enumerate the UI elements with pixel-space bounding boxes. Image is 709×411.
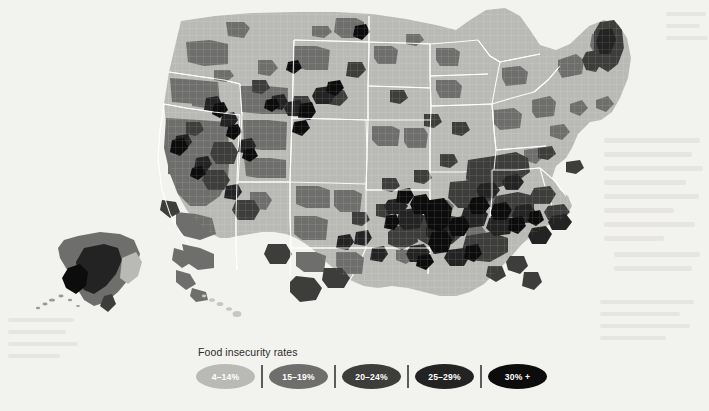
legend-item-2: 20–24%: [342, 364, 401, 389]
legend-label-4-14: 4–14%: [212, 372, 240, 382]
map-container: [0, 0, 709, 345]
map-layer-conus: [158, 8, 631, 302]
us-county-choropleth-map: [0, 0, 709, 345]
choropleth-figure: Food insecurity rates 4–14% 15–19% 2: [0, 0, 709, 411]
legend-item-3: 25–29%: [415, 364, 474, 389]
legend-label-20-24: 20–24%: [355, 372, 387, 382]
legend-title: Food insecurity rates: [198, 346, 576, 359]
legend-separator: [480, 365, 482, 388]
legend-item-4: 30% +: [488, 364, 547, 389]
legend-separator: [261, 365, 263, 388]
legend-swatch-25-29: 25–29%: [415, 364, 474, 389]
legend-swatch-15-19: 15–19%: [269, 364, 328, 389]
hawaii-inset: [202, 295, 242, 317]
legend-swatch-20-24: 20–24%: [342, 364, 401, 389]
map-legend: Food insecurity rates 4–14% 15–19% 2: [196, 346, 576, 406]
legend-item-0: 4–14%: [196, 364, 255, 389]
legend-label-30-plus: 30% +: [505, 372, 530, 382]
legend-swatch-4-14: 4–14%: [196, 364, 255, 389]
legend-label-15-19: 15–19%: [282, 372, 314, 382]
legend-item-1: 15–19%: [269, 364, 328, 389]
legend-separator: [334, 365, 336, 388]
legend-separator: [407, 365, 409, 388]
figure-page: Food insecurity rates 4–14% 15–19% 2: [0, 0, 709, 411]
alaska-inset: [36, 232, 142, 312]
legend-label-25-29: 25–29%: [428, 372, 460, 382]
legend-swatch-30-plus: 30% +: [488, 364, 547, 389]
aleutian-islands: [36, 295, 80, 310]
legend-item-list: 4–14% 15–19% 20–24%: [196, 364, 576, 389]
